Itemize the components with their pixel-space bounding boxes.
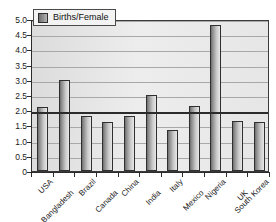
legend-swatch-icon <box>38 13 48 23</box>
bar <box>167 130 178 171</box>
x-category-label: Nigeria <box>204 178 228 202</box>
bar <box>102 122 113 171</box>
x-category-label: China <box>121 178 141 198</box>
y-tick-label: 3.0 <box>15 77 27 86</box>
y-tick-mark <box>27 96 31 97</box>
reference-line <box>32 112 268 114</box>
plot-area <box>31 20 269 172</box>
y-tick-mark <box>27 157 31 158</box>
y-tick-label: 3.5 <box>15 61 27 70</box>
x-category-label: Canada <box>94 189 119 214</box>
y-tick-label: 0.5 <box>15 153 27 162</box>
y-tick-mark <box>27 126 31 127</box>
y-tick-label: 5.0 <box>15 16 27 25</box>
bar <box>210 25 221 171</box>
y-tick-mark <box>27 111 31 112</box>
y-tick-mark <box>27 142 31 143</box>
y-tick-mark <box>27 20 31 21</box>
bar <box>189 106 200 171</box>
y-tick-label: 1.5 <box>15 122 27 131</box>
legend-label: Births/Female <box>53 13 109 22</box>
y-tick-label: 4.5 <box>15 31 27 40</box>
y-tick-label: 1.0 <box>15 137 27 146</box>
y-tick-label: 4.0 <box>15 46 27 55</box>
y-axis-line <box>31 20 32 173</box>
chart-legend: Births/Female <box>33 9 116 26</box>
y-tick-label: 2.0 <box>15 107 27 116</box>
bar <box>124 116 135 171</box>
x-category-label: Italy <box>168 178 184 194</box>
bar <box>37 107 48 171</box>
y-tick-mark <box>27 50 31 51</box>
x-category-label: Brazil <box>78 178 98 198</box>
y-tick-label: 2.5 <box>15 92 27 101</box>
x-category-label: USA <box>37 178 54 195</box>
y-tick-mark <box>27 81 31 82</box>
y-tick-mark <box>27 66 31 67</box>
x-category-label: India <box>145 189 163 207</box>
x-category-label: Bangladesh <box>41 189 77 222</box>
births-per-female-bar-chart: 00.51.01.52.02.53.03.54.04.55.0 USABangl… <box>0 0 276 222</box>
x-axis-category-labels: USABangladeshBrazilCanadaChinaIndiaItaly… <box>0 172 276 222</box>
bar <box>146 95 157 171</box>
y-tick-mark <box>27 35 31 36</box>
bar <box>254 122 265 171</box>
bar <box>59 80 70 171</box>
x-category-label: Mexico <box>182 189 206 213</box>
bar <box>81 116 92 171</box>
bar <box>232 121 243 171</box>
bars <box>32 21 268 171</box>
